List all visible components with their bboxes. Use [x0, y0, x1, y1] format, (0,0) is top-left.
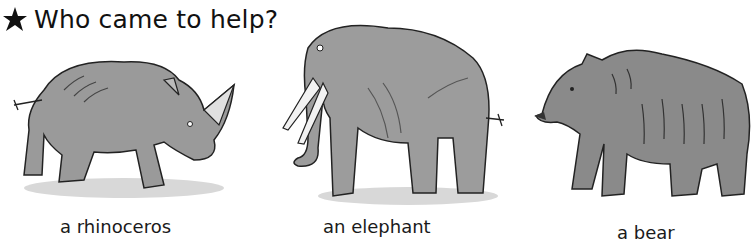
- caption-elephant: an elephant: [323, 216, 431, 237]
- heading: Who came to help?: [2, 2, 278, 36]
- star-icon: [2, 6, 28, 32]
- bear-illustration: [532, 44, 752, 208]
- bear-icon: [532, 44, 752, 208]
- elephant-icon: [268, 18, 508, 208]
- page-title: Who came to help?: [34, 5, 278, 34]
- rhinoceros-icon: [4, 50, 254, 200]
- elephant-illustration: [268, 18, 508, 208]
- caption-bear: a bear: [617, 222, 675, 243]
- rhinoceros-illustration: [4, 50, 254, 200]
- caption-rhinoceros: a rhinoceros: [60, 216, 171, 237]
